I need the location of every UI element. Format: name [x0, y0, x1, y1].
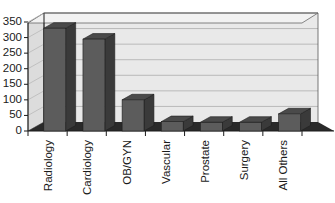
x-tick-label: Prostate: [199, 140, 211, 183]
bar-front-face: [200, 122, 222, 131]
y-tick-group: 050100150200250300350: [3, 15, 28, 136]
bar-front-face: [279, 114, 301, 131]
y-tick-label: 150: [3, 77, 22, 89]
bar-front-face: [161, 122, 183, 131]
bar-radiology: [44, 23, 76, 131]
bar-chart-figure: 050100150200250300350 RadiologyCardiolog…: [0, 0, 335, 203]
bar-side-face: [66, 23, 76, 131]
y-tick-label: 350: [3, 15, 22, 27]
bar-side-face: [144, 94, 154, 131]
x-tick-label: Vascular: [160, 140, 172, 184]
x-tick-label: Radiology: [42, 140, 54, 191]
bar-all-others: [279, 108, 311, 131]
plot-side-wall: [28, 13, 44, 131]
y-tick-label: 250: [3, 46, 22, 58]
x-tick-label: Cardiology: [81, 140, 93, 195]
bar-ob-gyn: [122, 94, 154, 131]
y-tick-label: 300: [3, 31, 22, 43]
bar-front-face: [240, 122, 262, 131]
bar-front-face: [83, 39, 105, 131]
y-tick-label: 0: [16, 124, 22, 136]
bar-front-face: [44, 28, 66, 131]
bar-cardiology: [83, 34, 115, 131]
y-tick-label: 50: [9, 108, 22, 120]
x-tick-label: OB/GYN: [121, 140, 133, 185]
x-tick-label: All Others: [277, 140, 289, 191]
y-tick-label: 100: [3, 93, 22, 105]
bar-side-face: [105, 34, 115, 131]
chart-canvas: 050100150200250300350 RadiologyCardiolog…: [0, 0, 335, 203]
x-label-group: RadiologyCardiologyOB/GYNVascularProstat…: [42, 140, 289, 195]
y-tick-label: 200: [3, 62, 22, 74]
x-tick-group: [28, 131, 302, 136]
x-tick-label: Surgery: [238, 140, 250, 181]
bar-front-face: [122, 100, 144, 131]
plot-top-ledge: [28, 13, 318, 23]
